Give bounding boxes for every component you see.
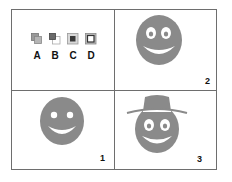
overlap-squares-filled-icon <box>31 33 43 45</box>
icon-label-d: D <box>85 50 97 61</box>
panel-figure-1: 1 <box>12 91 114 170</box>
figure-number-1: 1 <box>100 153 105 163</box>
icon-label-a: A <box>31 50 43 61</box>
panel-icon-legend: A B C D <box>12 10 114 90</box>
figure-number-2: 2 <box>205 76 210 86</box>
panel-figure-2: 2 <box>115 10 217 90</box>
icon-label-c: C <box>67 50 79 61</box>
smiley-face-with-hat-icon <box>121 91 201 155</box>
icon-label-b: B <box>49 50 61 61</box>
smiley-face-dot-eyes-icon <box>39 96 85 146</box>
square-inside-frame-icon <box>67 33 79 45</box>
panel-figure-3: 3 <box>115 91 217 170</box>
diagram-grid: A B C D <box>11 9 217 170</box>
figure-number-3: 3 <box>197 154 202 164</box>
icon-row: A B C D <box>31 33 101 63</box>
overlap-squares-offset-icon <box>49 33 61 45</box>
smiley-face-oval-eyes-icon <box>135 14 183 66</box>
square-inside-frame-outlined-icon <box>85 33 97 45</box>
